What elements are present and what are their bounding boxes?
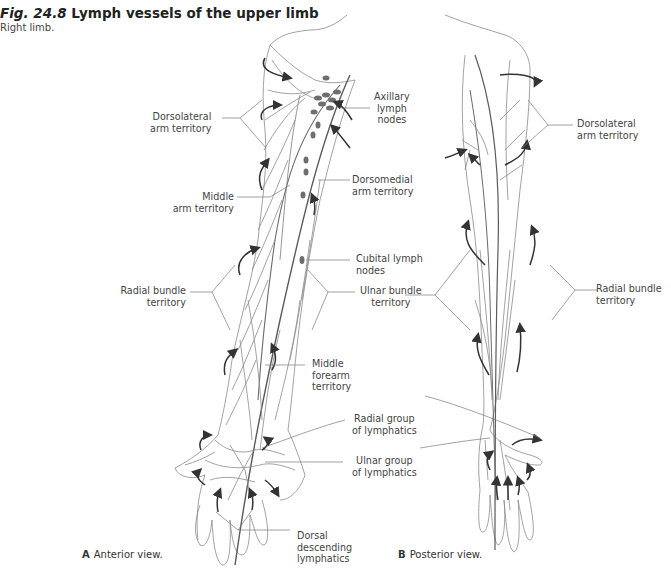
label-line: Middle [170,191,234,203]
label-radial-group-of-lymphatics: Radial group of lymphatics [352,413,417,436]
label-radial-bundle-territory-b: Radial bundle territory [596,283,662,306]
label-line: Radial bundle [118,285,186,297]
caption-text-b: Posterior view. [410,549,483,560]
label-line: Radial group [352,413,417,425]
label-line: Ulnar group [352,455,417,467]
flow-arrows-a [198,58,352,512]
panel-letter-a: A [82,549,90,560]
label-line: Dorsolateral [150,111,211,123]
label-line: Middle [312,358,351,370]
label-line: territory [596,295,662,307]
label-line: arm territory [170,203,234,215]
label-line: Dorsal [297,530,352,542]
label-ulnar-bundle-territory: Ulnar bundle territory [360,285,422,308]
label-dorsomedial-arm-territory: Dorsomedial arm territory [352,174,413,197]
label-line: forearm [312,370,351,382]
label-line: Radial bundle [596,283,662,295]
label-line: arm territory [150,123,211,135]
label-middle-forearm-territory: Middle forearm territory [312,358,351,393]
label-middle-arm-territory: Middle arm territory [170,191,234,214]
label-dorsolateral-arm-territory-a: Dorsolateral arm territory [150,111,211,134]
label-line: arm territory [577,130,638,142]
label-line: descending [297,542,352,554]
label-line: lymphatics [297,553,352,565]
label-line: Axillary [374,91,410,103]
caption-anterior-view: AAnterior view. [82,549,163,560]
caption-text-a: Anterior view. [94,549,163,560]
label-dorsolateral-arm-territory-b: Dorsolateral arm territory [577,118,638,141]
label-line: Dorsolateral [577,118,638,130]
label-radial-bundle-territory-a: Radial bundle territory [118,285,186,308]
label-axillary-lymph-nodes: Axillary lymph nodes [374,91,410,126]
label-line: Ulnar bundle [360,285,422,297]
label-line: territory [118,297,186,309]
label-line: Cubital lymph [356,253,423,265]
label-ulnar-group-of-lymphatics: Ulnar group of lymphatics [352,455,417,478]
label-line: territory [360,297,422,309]
label-line: nodes [356,265,423,277]
label-line: Dorsomedial [352,174,413,186]
label-line: lymph [374,103,410,115]
label-dorsal-descending-lymphatics: Dorsal descending lymphatics [297,530,352,565]
label-line: nodes [374,114,410,126]
lymph-nodes-a [300,76,342,265]
panel-letter-b: B [398,549,406,560]
label-line: territory [312,381,351,393]
caption-posterior-view: BPosterior view. [398,549,482,560]
label-cubital-lymph-nodes: Cubital lymph nodes [356,253,423,276]
label-line: of lymphatics [352,467,417,479]
lymph-illustration [0,0,671,572]
posterior-arm-drawing [445,15,542,552]
label-line: arm territory [352,186,413,198]
label-line: of lymphatics [352,425,417,437]
